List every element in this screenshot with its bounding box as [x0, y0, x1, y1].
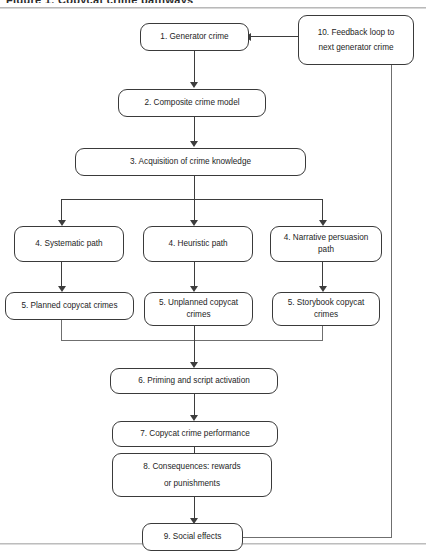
connector-3-to-4a [61, 199, 62, 221]
connector-10-to-1 [249, 36, 299, 37]
node-1-label: 1. Generator crime [145, 31, 244, 42]
node-10-feedback-loop[interactable]: 10. Feedback loop to next generator crim… [298, 15, 414, 65]
node-9-label: 9. Social effects [147, 531, 238, 542]
node-4c-narrative-persuasion-path[interactable]: 4. Narrative persuasion path [270, 226, 382, 262]
flowchart-page: Figure 1. Copycat crime pathways 1. Gene… [0, 0, 426, 555]
connector-9-feedback-horizontal [243, 537, 392, 538]
node-4b-heuristic-path[interactable]: 4. Heuristic path [143, 226, 253, 262]
node-3-label: 3. Acquisition of crime knowledge [80, 156, 301, 167]
connector-merge-bus [61, 340, 323, 341]
node-2-composite-crime-model[interactable]: 2. Composite crime model [118, 89, 266, 117]
node-4c-label-line2: path [275, 244, 377, 256]
connector-4b-to-5b [194, 262, 195, 287]
node-4a-label: 4. Systematic path [19, 238, 119, 249]
node-7-label: 7. Copycat crime performance [117, 428, 273, 439]
node-3-acquisition-of-crime-knowledge[interactable]: 3. Acquisition of crime knowledge [75, 148, 306, 176]
connector-4c-to-5c [322, 262, 323, 287]
node-5a-planned-copycat-crimes[interactable]: 5. Planned copycat crimes [5, 292, 134, 320]
connector-3-to-4c [322, 199, 323, 221]
node-8-consequences[interactable]: 8. Consequences: rewards or punishments [112, 453, 272, 497]
node-5c-label-line2: crimes [277, 309, 375, 321]
node-5c-storybook-copycat-crimes[interactable]: 5. Storybook copycat crimes [272, 292, 380, 326]
page-edge-line-top-shadow [0, 8, 426, 9]
connector-5c-merge-leg [322, 326, 323, 341]
arrowhead-into-node-3 [190, 141, 198, 147]
node-1-generator-crime[interactable]: 1. Generator crime [140, 23, 249, 51]
node-5c-label-line1: 5. Storybook copycat [277, 297, 375, 309]
node-10-label-line2: next generator crime [303, 43, 409, 52]
node-4b-label: 4. Heuristic path [148, 238, 248, 249]
connector-2-to-3 [194, 117, 195, 142]
node-8-label-line2: or punishments [117, 479, 267, 488]
node-8-label-line1: 8. Consequences: rewards [117, 462, 267, 471]
node-5b-unplanned-copycat-crimes[interactable]: 5. Unplanned copycat crimes [144, 292, 253, 326]
node-7-copycat-crime-performance[interactable]: 7. Copycat crime performance [112, 421, 278, 447]
connector-6-to-7 [194, 394, 195, 416]
connector-merge-to-6 [194, 326, 195, 363]
node-5a-label: 5. Planned copycat crimes [10, 300, 129, 311]
clipped-figure-caption: Figure 1. Copycat crime pathways [6, 0, 306, 3]
node-6-priming-and-script-activation[interactable]: 6. Priming and script activation [110, 368, 278, 394]
node-9-social-effects[interactable]: 9. Social effects [142, 523, 243, 551]
connector-feedback-right-rail [391, 65, 392, 538]
connector-4a-to-5a [61, 262, 62, 287]
node-4a-systematic-path[interactable]: 4. Systematic path [14, 226, 124, 262]
arrowhead-into-node-2 [190, 82, 198, 88]
node-2-label: 2. Composite crime model [123, 97, 261, 108]
node-5b-label-line2: crimes [149, 309, 248, 321]
connector-3-to-4b [194, 199, 195, 221]
connector-3-fanout-stem [194, 176, 195, 200]
connector-8-to-9 [194, 497, 195, 519]
connector-1-to-2 [194, 51, 195, 83]
node-4c-label-line1: 4. Narrative persuasion [275, 232, 377, 244]
node-5b-label-line1: 5. Unplanned copycat [149, 297, 248, 309]
connector-5a-merge-leg [61, 320, 62, 341]
connector-3-fanout-bus [61, 199, 323, 200]
node-10-label-line1: 10. Feedback loop to [303, 28, 409, 37]
node-6-label: 6. Priming and script activation [115, 375, 273, 386]
